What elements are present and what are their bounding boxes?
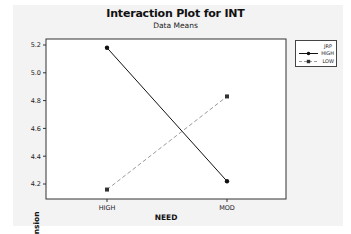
- legend-label-low: LOW: [323, 58, 335, 65]
- plot-area: 4.24.44.64.85.05.2HIGHMOD: [0, 0, 351, 234]
- y-tick-label: 5.2: [31, 41, 41, 49]
- y-tick-label: 4.2: [31, 180, 41, 188]
- dashed-line-square-icon: [298, 58, 320, 65]
- plot-frame: [46, 39, 286, 199]
- x-tick-label: MOD: [219, 204, 235, 212]
- y-tick-label: 5.0: [31, 69, 41, 77]
- legend-item-low: LOW: [298, 58, 336, 65]
- legend: JRP HIGH LOW: [295, 40, 337, 67]
- y-tick-label: 4.4: [31, 153, 41, 161]
- data-point-square: [225, 94, 229, 98]
- solid-line-circle-icon: [298, 50, 320, 57]
- legend-title: JRP: [324, 43, 332, 49]
- data-point-circle: [105, 46, 109, 50]
- y-tick-label: 4.8: [31, 97, 41, 105]
- data-point-circle: [225, 179, 229, 183]
- x-axis-label: NEED: [155, 213, 178, 222]
- data-point-square: [105, 188, 109, 192]
- y-axis-label: Mean Intension: [32, 211, 41, 234]
- x-tick-label: HIGH: [99, 204, 116, 212]
- y-tick-label: 4.6: [31, 125, 41, 133]
- legend-item-high: HIGH: [298, 50, 336, 57]
- legend-label-high: HIGH: [321, 50, 334, 57]
